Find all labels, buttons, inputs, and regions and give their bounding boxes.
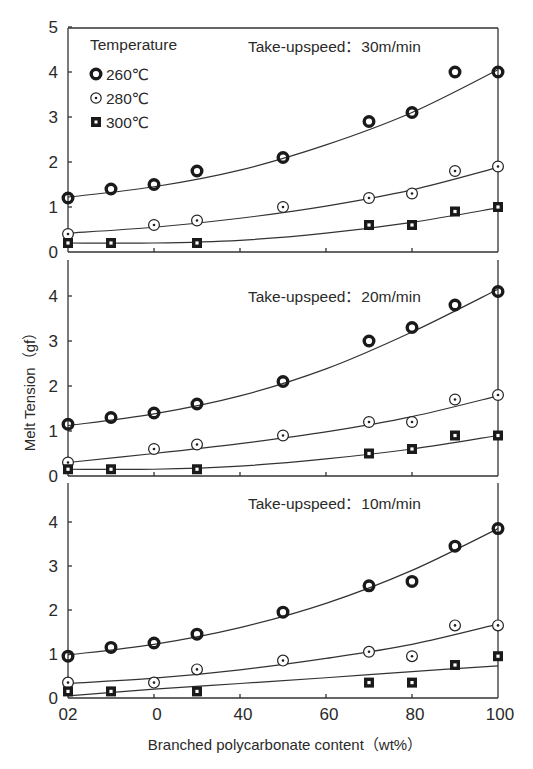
data-point-260 <box>106 643 116 653</box>
data-point-260 <box>364 336 374 346</box>
y-tick-label: 2 <box>49 153 58 172</box>
x-tick-label: 40 <box>234 705 253 724</box>
melt-tension-chart: 012345Take-upspeed：30m/min01234Take-upsp… <box>0 0 533 769</box>
data-point-260 <box>364 117 374 127</box>
data-point-260 <box>450 541 460 551</box>
y-tick-label: 3 <box>49 108 58 127</box>
data-point-260 <box>192 629 202 639</box>
data-point-260 <box>192 166 202 176</box>
legend-label: 280℃ <box>106 90 149 107</box>
y-tick-label: 1 <box>49 645 58 664</box>
x-tick-label: 02 <box>59 705 78 724</box>
fit-curve-280 <box>68 167 498 233</box>
x-tick-label: 60 <box>320 705 339 724</box>
data-point-260 <box>106 413 116 423</box>
fit-curve-260 <box>68 529 498 655</box>
fit-curve-260 <box>68 70 498 197</box>
legend-entry-300: 300℃ <box>91 114 149 131</box>
y-tick-label: 3 <box>49 332 58 351</box>
y-tick-label: 4 <box>49 287 58 306</box>
y-tick-label: 0 <box>49 467 58 486</box>
data-point-260 <box>278 153 288 163</box>
y-tick-label: 4 <box>49 63 58 82</box>
legend-label: 260℃ <box>106 66 149 83</box>
fit-curve-260 <box>68 289 498 425</box>
panel-3: 01234Take-upspeed：10m/min <box>49 483 504 708</box>
data-point-260 <box>149 180 159 190</box>
panel-title: Take-upspeed：10m/min <box>248 495 421 512</box>
data-point-260 <box>106 184 116 194</box>
y-tick-label: 2 <box>49 377 58 396</box>
fit-curve-280 <box>68 396 498 463</box>
thick-ring-marker-icon <box>91 69 101 79</box>
legend: Temperature 260℃ 280℃ 300℃ <box>90 36 177 131</box>
y-tick-label: 1 <box>49 198 58 217</box>
data-point-260 <box>450 300 460 310</box>
y-axis-title: Melt Tension（gf） <box>21 325 38 451</box>
data-point-260 <box>450 67 460 77</box>
x-tick-label: 100 <box>486 705 514 724</box>
panel-title: Take-upspeed：20m/min <box>248 288 421 305</box>
y-tick-label: 4 <box>49 513 58 532</box>
data-point-260 <box>407 577 417 587</box>
y-tick-label: 3 <box>49 557 58 576</box>
data-point-260 <box>278 607 288 617</box>
y-tick-label: 0 <box>49 689 58 708</box>
y-tick-label: 2 <box>49 601 58 620</box>
legend-entry-260: 260℃ <box>91 66 149 83</box>
legend-title: Temperature <box>90 36 177 53</box>
y-tick-label: 1 <box>49 422 58 441</box>
fit-curve-300 <box>68 666 498 696</box>
data-point-260 <box>149 408 159 418</box>
x-axis-tick-labels: 02 0 40 60 80 100 <box>59 705 515 724</box>
data-point-260 <box>407 323 417 333</box>
panel-1: 012345Take-upspeed：30m/min <box>49 18 504 262</box>
data-point-260 <box>149 638 159 648</box>
panel-title: Take-upspeed：30m/min <box>248 38 421 55</box>
x-tick-label: 80 <box>406 705 425 724</box>
data-point-260 <box>364 581 374 591</box>
legend-label: 300℃ <box>106 114 149 131</box>
data-point-260 <box>278 377 288 387</box>
fit-curve-280 <box>68 624 498 683</box>
legend-entry-280: 280℃ <box>91 90 149 107</box>
x-axis-title: Branched polycarbonate content（wt%） <box>148 736 422 753</box>
y-tick-label: 5 <box>49 18 58 37</box>
panel-2: 01234Take-upspeed：20m/min <box>49 260 504 486</box>
data-point-260 <box>192 399 202 409</box>
x-tick-label: 0 <box>152 705 161 724</box>
y-tick-label: 0 <box>49 243 58 262</box>
